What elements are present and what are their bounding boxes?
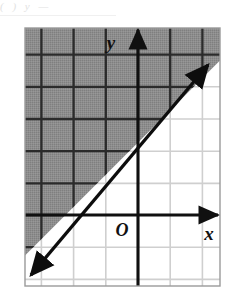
- origin-label: O: [116, 220, 129, 240]
- y-axis-label: y: [105, 32, 116, 53]
- coordinate-plane-svg: y x O: [0, 0, 233, 288]
- x-axis-label: x: [203, 223, 214, 244]
- inequality-graph-figure: y x O: [0, 0, 233, 288]
